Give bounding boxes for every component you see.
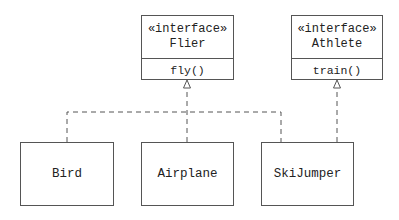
operation: train()	[292, 59, 382, 81]
class-bird[interactable]: Bird	[20, 142, 114, 206]
class-name: Airplane	[157, 167, 217, 181]
interface-header: «interface» Athlete	[292, 16, 382, 59]
interface-header: «interface» Flier	[142, 16, 233, 59]
interface-name: Athlete	[312, 37, 362, 52]
stereotype-label: «interface»	[297, 22, 376, 37]
class-airplane[interactable]: Airplane	[141, 142, 234, 206]
interface-athlete[interactable]: «interface» Athlete train()	[291, 15, 383, 80]
realization-arrowhead-flier-icon	[184, 80, 191, 88]
stereotype-label: «interface»	[148, 22, 227, 37]
class-name: SkiJumper	[274, 167, 342, 181]
realization-bird-flier	[67, 112, 281, 142]
operation: fly()	[142, 59, 233, 81]
class-name: Bird	[52, 167, 82, 181]
class-skijumper[interactable]: SkiJumper	[261, 142, 354, 206]
interface-flier[interactable]: «interface» Flier fly()	[141, 15, 234, 80]
realization-arrowhead-athlete-icon	[334, 80, 341, 88]
interface-name: Flier	[169, 37, 205, 52]
